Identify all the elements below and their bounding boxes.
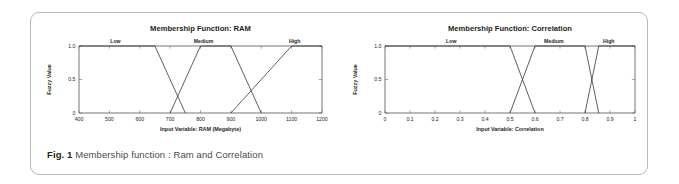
y-tick-label: 1.0 [374,43,381,49]
membership-curve-high [585,46,635,113]
x-tick-label: 700 [166,116,175,122]
chart-membership-function-correlation: Membership Function: Correlation00.10.20… [335,13,647,141]
y-tick-label: 0.5 [68,76,75,82]
figure-caption: Fig. 1 Membership function : Ram and Cor… [47,149,637,161]
x-tick-label: 800 [196,116,205,122]
membership-curve-medium [510,46,599,113]
membership-curve-low [385,46,535,113]
figure-number: Fig. 1 [47,149,72,160]
y-tick-label: 0.5 [374,76,381,82]
y-axis-label: Fuzzy Value [352,64,358,95]
charts-row: Membership Function: RAM4005006007008009… [31,13,649,141]
x-tick-label: 0.8 [581,116,588,122]
term-label-medium: Medium [194,38,214,44]
membership-curve-low [79,46,185,113]
term-label-low: Low [446,38,457,44]
x-tick-label: 0.7 [556,116,563,122]
x-tick-label: 0.5 [506,116,513,122]
ram-chart-svg: Membership Function: RAM4005006007008009… [33,13,333,141]
chart-title: Membership Function: Correlation [448,24,572,33]
membership-curve-high [231,46,322,113]
x-tick-label: 1100 [286,116,297,122]
x-tick-label: 0 [384,116,387,122]
figure-caption-body: Membership function : Ram and Correlatio… [75,149,263,160]
term-label-low: Low [110,38,121,44]
term-label-high: High [603,38,615,44]
figure-container: Membership Function: RAM4005006007008009… [30,12,648,175]
x-axis-label: Input Variable: Correlation [476,126,543,132]
x-axis-label: Input Variable: RAM (Megabyte) [160,126,241,132]
y-axis-label: Fuzzy Value [46,64,52,95]
term-label-medium: Medium [544,38,564,44]
x-tick-label: 0.6 [531,116,538,122]
y-tick-label: 1.0 [68,43,75,49]
y-tick-label: 0 [73,110,76,116]
x-tick-label: 1000 [255,116,267,122]
x-tick-label: 400 [75,116,84,122]
x-tick-label: 900 [227,116,236,122]
x-tick-label: 0.3 [456,116,463,122]
x-tick-label: 600 [135,116,144,122]
x-tick-label: 1200 [316,116,328,122]
x-tick-label: 1 [634,116,637,122]
term-label-high: High [289,38,301,44]
x-tick-label: 500 [105,116,114,122]
correlation-chart-svg: Membership Function: Correlation00.10.20… [335,13,647,141]
chart-title: Membership Function: RAM [150,24,251,33]
chart-membership-function-ram: Membership Function: RAM4005006007008009… [33,13,333,141]
y-tick-label: 0 [379,110,382,116]
x-tick-label: 0.4 [481,116,488,122]
x-tick-label: 0.1 [406,116,413,122]
x-tick-label: 0.2 [431,116,438,122]
membership-curve-medium [170,46,261,113]
x-tick-label: 0.9 [606,116,613,122]
